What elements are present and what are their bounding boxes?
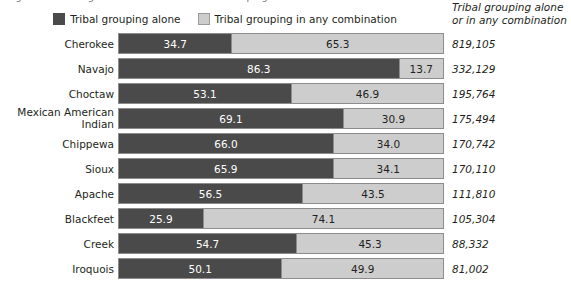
- right-column-header-line1: Tribal grouping alone: [452, 1, 571, 14]
- row-count: 105,304: [450, 213, 569, 225]
- bar-value-combination: 46.9: [356, 88, 379, 100]
- bar-value-alone: 50.1: [188, 263, 211, 275]
- legend-item-combination: Tribal grouping in any combination: [198, 13, 397, 25]
- table-row: Iroquois50.149.981,002: [0, 256, 571, 281]
- row-label-line2: Indian: [0, 119, 114, 131]
- stacked-bar: 65.934.1: [118, 158, 444, 179]
- right-column-header: Tribal grouping alone or in any combinat…: [452, 1, 571, 26]
- row-count: 81,002: [450, 263, 569, 275]
- row-count: 819,105: [450, 38, 569, 50]
- bar-segment-alone: 54.7: [119, 234, 296, 253]
- bar-segment-alone: 86.3: [119, 59, 399, 78]
- bar-segment-combination: 43.5: [302, 184, 443, 203]
- bar-value-alone: 53.1: [193, 88, 216, 100]
- legend-item-combination-label: Tribal grouping in any combination: [215, 14, 397, 25]
- bar-value-combination: 34.0: [377, 138, 400, 150]
- row-label: Iroquois: [0, 263, 118, 275]
- stacked-bar: 86.313.7: [118, 58, 444, 79]
- bar-segment-combination: 34.1: [333, 159, 443, 178]
- stacked-bar-chart: Figure 1. Ten Largest American Indian Tr…: [0, 0, 571, 288]
- bar-value-combination: 13.7: [410, 63, 433, 75]
- bar-segment-alone: 66.0: [119, 134, 333, 153]
- row-count: 170,110: [450, 163, 569, 175]
- bar-segment-combination: 65.3: [231, 34, 443, 53]
- bar-value-alone: 69.1: [219, 113, 242, 125]
- bar-segment-combination: 34.0: [333, 134, 443, 153]
- bar-value-combination: 43.5: [361, 188, 384, 200]
- stacked-bar: 54.745.3: [118, 233, 444, 254]
- row-label: Blackfeet: [0, 213, 118, 225]
- bar-segment-alone: 65.9: [119, 159, 333, 178]
- legend-item-alone: Tribal grouping alone: [53, 13, 180, 25]
- bar-segment-alone: 25.9: [119, 209, 203, 228]
- row-label: Creek: [0, 238, 118, 250]
- stacked-bar: 53.146.9: [118, 83, 444, 104]
- bar-segment-alone: 69.1: [119, 109, 343, 128]
- bar-value-combination: 30.9: [382, 113, 405, 125]
- stacked-bar: 66.034.0: [118, 133, 444, 154]
- chart-legend: Tribal grouping alone Tribal grouping in…: [0, 11, 450, 27]
- row-label: Cherokee: [0, 38, 118, 50]
- row-label: Navajo: [0, 63, 118, 75]
- row-count: 332,129: [450, 63, 569, 75]
- bar-value-combination: 74.1: [312, 213, 335, 225]
- table-row: Choctaw53.146.9195,764: [0, 81, 571, 106]
- bar-segment-combination: 30.9: [343, 109, 443, 128]
- bar-segment-combination: 46.9: [291, 84, 443, 103]
- table-row: Navajo86.313.7332,129: [0, 56, 571, 81]
- bar-value-alone: 65.9: [214, 163, 237, 175]
- stacked-bar: 50.149.9: [118, 258, 444, 279]
- bar-segment-alone: 50.1: [119, 259, 281, 278]
- bar-value-combination: 45.3: [358, 238, 381, 250]
- row-label: Apache: [0, 188, 118, 200]
- bar-segment-combination: 49.9: [281, 259, 443, 278]
- row-count: 195,764: [450, 88, 569, 100]
- table-row: Sioux65.934.1170,110: [0, 156, 571, 181]
- row-label: Chippewa: [0, 138, 118, 150]
- stacked-bar: 69.130.9: [118, 108, 444, 129]
- stacked-bar: 56.543.5: [118, 183, 444, 204]
- bar-segment-alone: 34.7: [119, 34, 231, 53]
- bar-segment-combination: 45.3: [296, 234, 443, 253]
- row-count: 111,810: [450, 188, 569, 200]
- bar-segment-combination: 13.7: [399, 59, 443, 78]
- table-row: Chippewa66.034.0170,742: [0, 131, 571, 156]
- bar-value-alone: 25.9: [149, 213, 172, 225]
- bar-segment-alone: 53.1: [119, 84, 291, 103]
- legend-item-alone-label: Tribal grouping alone: [70, 14, 180, 25]
- light-swatch-icon: [198, 13, 210, 25]
- bar-value-alone: 34.7: [164, 38, 187, 50]
- row-label: Sioux: [0, 163, 118, 175]
- table-row: Cherokee34.765.3819,105: [0, 31, 571, 56]
- table-row: Creek54.745.388,332: [0, 231, 571, 256]
- bar-value-combination: 49.9: [351, 263, 374, 275]
- chart-rows: Cherokee34.765.3819,105Navajo86.313.7332…: [0, 31, 571, 281]
- stacked-bar: 34.765.3: [118, 33, 444, 54]
- dark-swatch-icon: [53, 13, 65, 25]
- row-count: 175,494: [450, 113, 569, 125]
- row-label: Choctaw: [0, 88, 118, 100]
- table-row: Apache56.543.5111,810: [0, 181, 571, 206]
- row-label: Mexican AmericanIndian: [0, 107, 118, 130]
- bar-segment-alone: 56.5: [119, 184, 302, 203]
- row-count: 170,742: [450, 138, 569, 150]
- table-row: Blackfeet25.974.1105,304: [0, 206, 571, 231]
- bar-segment-combination: 74.1: [203, 209, 443, 228]
- row-label-line1: Mexican American: [0, 107, 114, 119]
- bar-value-combination: 65.3: [326, 38, 349, 50]
- bar-value-alone: 56.5: [199, 188, 222, 200]
- right-column-header-line2: or in any combination: [452, 14, 571, 27]
- bar-value-alone: 86.3: [247, 63, 270, 75]
- row-count: 88,332: [450, 238, 569, 250]
- bar-value-alone: 66.0: [214, 138, 237, 150]
- bar-value-alone: 54.7: [196, 238, 219, 250]
- bar-value-combination: 34.1: [377, 163, 400, 175]
- stacked-bar: 25.974.1: [118, 208, 444, 229]
- table-row: Mexican AmericanIndian69.130.9175,494: [0, 106, 571, 131]
